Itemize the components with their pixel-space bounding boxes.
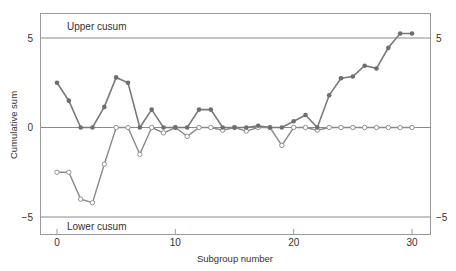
- lower-cusum-markers: [55, 125, 414, 205]
- lower-cusum-point: [339, 125, 343, 129]
- lower-cusum-point: [209, 125, 213, 129]
- upper-cusum-point: [386, 46, 391, 51]
- lower-cusum-point: [410, 125, 414, 129]
- lower-cusum-point: [55, 170, 59, 174]
- upper-cusum-point: [327, 93, 332, 98]
- x-tick-0: 0: [54, 237, 60, 248]
- upper-cusum-point: [126, 80, 131, 85]
- lower-cusum-point: [185, 134, 189, 138]
- upper-cusum-point: [374, 66, 379, 71]
- lower-cusum-label: Lower cusum: [67, 221, 126, 232]
- upper-cusum-line: [57, 34, 412, 128]
- upper-cusum-point: [138, 125, 143, 130]
- upper-cusum-point: [244, 125, 249, 130]
- lower-cusum-point: [114, 125, 118, 129]
- lower-cusum-point: [197, 125, 201, 129]
- lower-cusum-point: [67, 170, 71, 174]
- upper-cusum-point: [362, 63, 367, 68]
- upper-cusum-point: [398, 31, 403, 36]
- lower-cusum-point: [161, 131, 165, 135]
- upper-cusum-point: [303, 113, 308, 118]
- upper-cusum-point: [149, 107, 154, 112]
- upper-cusum-point: [197, 107, 202, 112]
- upper-cusum-point: [78, 125, 83, 130]
- lower-cusum-point: [374, 125, 378, 129]
- upper-cusum-point: [209, 107, 214, 112]
- lower-cusum-point: [149, 125, 153, 129]
- upper-cusum-markers: [55, 31, 415, 130]
- y-tick-minus-5: −5: [22, 212, 34, 223]
- lower-cusum-point: [78, 197, 82, 201]
- lower-cusum-point: [351, 125, 355, 129]
- lower-cusum-point: [362, 125, 366, 129]
- lower-cusum-point: [280, 143, 284, 147]
- upper-cusum-point: [161, 125, 166, 130]
- lower-cusum-point: [102, 162, 106, 166]
- lower-cusum-point: [291, 125, 295, 129]
- upper-cusum-point: [256, 123, 261, 128]
- y-tick-5: 5: [27, 33, 33, 44]
- upper-cusum-point: [315, 125, 320, 130]
- upper-cusum-point: [339, 76, 344, 81]
- lower-cusum-line: [57, 128, 412, 203]
- upper-cusum-point: [102, 105, 107, 110]
- x-tick-20: 20: [288, 237, 300, 248]
- upper-cusum-point: [220, 125, 225, 130]
- upper-cusum-point: [268, 125, 273, 130]
- plot-frame: [41, 14, 431, 235]
- upper-cusum-point: [185, 125, 190, 130]
- lower-cusum-point: [126, 125, 130, 129]
- upper-cusum-point: [55, 80, 60, 85]
- upper-cusum-label: Upper cusum: [67, 21, 126, 32]
- x-axis-label: Subgroup number: [197, 253, 273, 264]
- upper-cusum-point: [232, 125, 237, 130]
- right-y-tick-minus-5: −5: [436, 212, 448, 223]
- x-tick-10: 10: [170, 237, 182, 248]
- y-tick-0: 0: [27, 122, 33, 133]
- upper-cusum-point: [280, 125, 285, 130]
- right-y-tick-5: 5: [436, 33, 442, 44]
- x-tick-30: 30: [406, 237, 418, 248]
- upper-cusum-point: [291, 119, 296, 124]
- lower-cusum-point: [398, 125, 402, 129]
- upper-cusum-point: [114, 75, 119, 80]
- cusum-chart: Upper cusum Lower cusum 5 0 −5 5 −5 0 10…: [0, 0, 456, 271]
- upper-cusum-point: [67, 98, 72, 103]
- lower-cusum-point: [303, 125, 307, 129]
- upper-cusum-point: [410, 31, 415, 36]
- upper-cusum-point: [351, 74, 356, 79]
- y-axis-label: Cumulative sum: [8, 91, 19, 159]
- upper-cusum-point: [173, 125, 178, 130]
- lower-cusum-point: [327, 125, 331, 129]
- upper-cusum-point: [90, 125, 95, 130]
- lower-cusum-point: [90, 200, 94, 204]
- lower-cusum-point: [386, 125, 390, 129]
- lower-cusum-point: [138, 152, 142, 156]
